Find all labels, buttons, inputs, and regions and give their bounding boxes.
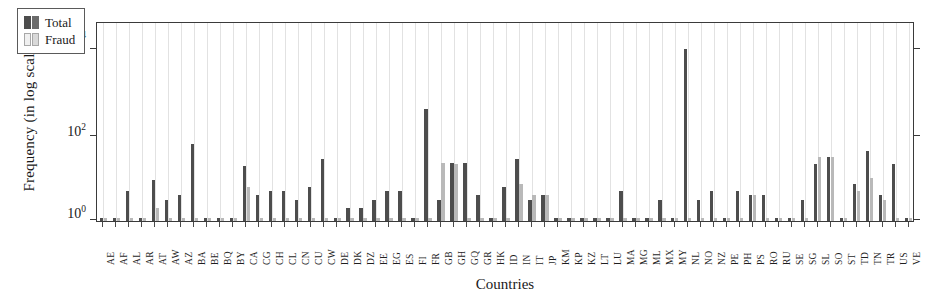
x-tick [778,222,779,227]
x-tick-label-my: MY [678,249,688,265]
x-tick [284,222,285,227]
gridline [285,23,286,221]
bar-total [515,159,518,221]
bar-total [541,195,544,221]
bar-fraud [299,218,302,221]
x-tick-label-ae: AE [106,252,116,265]
y-tick-label-10e2: 102 [40,122,86,140]
bar-fraud [143,218,146,221]
x-tick [531,222,532,227]
y-tick [914,135,920,136]
legend-label-total: Total [45,15,72,31]
x-tick [414,222,415,227]
bar-fraud [610,218,613,221]
x-tick [453,222,454,227]
x-tick [336,222,337,227]
x-tick-label-cn: CN [301,251,311,265]
x-tick [362,222,363,227]
bar-total [126,191,129,221]
x-tick-label-ve: VE [912,252,922,265]
x-tick-label-ee: EE [379,253,389,265]
x-tick-label-al: AL [132,252,142,265]
bar-fraud [831,157,834,221]
x-tick-label-in: IN [522,254,532,265]
x-tick-label-aw: AW [171,249,181,265]
bar-fraud [273,218,276,221]
x-tick [388,222,389,227]
bar-fraud [805,218,808,221]
bar-total [775,218,778,221]
bar-fraud [117,218,120,221]
bar-total [697,200,700,221]
legend-item-total: Total [24,14,75,31]
bar-fraud [130,218,133,221]
gridline [142,23,143,221]
bar-fraud [753,195,756,221]
x-tick [895,222,896,227]
bar-total [282,191,285,221]
x-tick [648,222,649,227]
x-tick-label-cg: CG [262,251,272,265]
x-tick-label-nl: NL [691,252,701,265]
gridline [675,23,676,221]
x-tick-label-az: AZ [184,252,194,265]
x-tick [375,222,376,227]
x-tick [466,222,467,227]
bar-fraud [493,218,496,221]
x-tick [739,222,740,227]
gridline [909,23,910,221]
x-tick-label-hk: HK [496,251,506,265]
gridline [428,23,429,221]
x-tick-label-es: ES [405,253,415,265]
x-tick [687,222,688,227]
bar-fraud [792,218,795,221]
bar-fraud [909,218,912,221]
bar-fraud [844,218,847,221]
gridline [714,23,715,221]
x-tick-label-td: TD [860,252,870,265]
chart-figure: Frequency (in log scale) 104 102 100 AEA… [0,0,950,302]
gridline [779,23,780,221]
x-tick-label-us: US [899,252,909,265]
gridline [220,23,221,221]
bar-total [191,144,194,221]
gridline [363,23,364,221]
bar-fraud [260,218,263,221]
gridline [116,23,117,221]
x-tick-label-nz: NZ [717,252,727,265]
bar-fraud [428,218,431,221]
gridline [740,23,741,221]
bar-total [606,218,609,221]
x-tick-label-bq: BQ [223,251,233,265]
gridline [766,23,767,221]
x-tick [817,222,818,227]
x-tick-label-ma: MA [626,249,636,265]
bar-fraud [636,218,639,221]
x-tick-label-ps: PS [756,254,766,265]
x-tick-label-it: IT [535,255,545,265]
x-tick [115,222,116,227]
x-tick-label-kp: KP [574,252,584,265]
bar-fraud [480,218,483,221]
bar-total [840,218,843,221]
gridline [376,23,377,221]
x-tick [271,222,272,227]
bar-total [684,49,687,221]
bar-total [178,195,181,221]
x-tick-label-cu: CU [314,251,324,265]
gridline [571,23,572,221]
bar-fraud [454,164,457,221]
bar-fraud [571,218,574,221]
bar-total [424,109,427,221]
x-tick [830,222,831,227]
gridline [532,23,533,221]
bar-fraud [389,218,392,221]
gridline [298,23,299,221]
x-tick-label-mg: MG [639,249,649,265]
x-tick [908,222,909,227]
bar-fraud [402,218,405,221]
x-tick-label-sl: SL [821,253,831,265]
gridline [896,23,897,221]
bar-total [437,200,440,221]
x-tick-label-eg: EG [392,252,402,265]
